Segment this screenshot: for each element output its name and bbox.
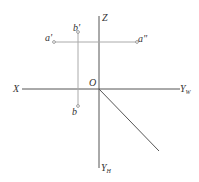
- yh-subscript: H: [107, 168, 111, 174]
- point-b-top: [77, 105, 80, 108]
- yh-axis-label: YH: [101, 163, 111, 174]
- point-b-front-label: b': [73, 23, 80, 33]
- x-axis-label: X: [13, 84, 19, 94]
- diagram-canvas: [0, 0, 199, 182]
- origin-label: O: [89, 78, 96, 88]
- point-b-top-label: b: [72, 107, 77, 117]
- point-a-side-label: a": [138, 34, 147, 44]
- yw-axis-label: YW: [180, 84, 191, 95]
- z-axis-label: Z: [102, 13, 108, 23]
- projection-diagram: Z O X YW YH a' a" b' b: [0, 0, 199, 182]
- point-a-front-label: a': [45, 33, 52, 43]
- point-a-front: [53, 41, 56, 44]
- diagonal-45-line: [99, 89, 159, 151]
- yw-subscript: W: [186, 89, 191, 95]
